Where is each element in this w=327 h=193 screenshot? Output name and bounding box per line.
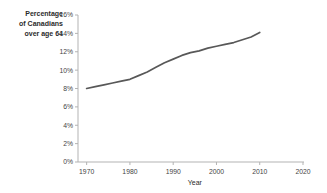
x-tick-label: 1990 bbox=[166, 168, 181, 175]
y-tick-label: 6% bbox=[63, 103, 73, 110]
x-axis-title: Year bbox=[188, 179, 203, 186]
y-tick-label: 14% bbox=[59, 30, 73, 37]
y-tick-label: 12% bbox=[59, 48, 73, 55]
y-tick-label: 2% bbox=[63, 140, 73, 147]
data-line bbox=[87, 32, 260, 88]
y-tick-label: 0% bbox=[63, 158, 73, 165]
x-tick-label: 2000 bbox=[209, 168, 224, 175]
y-tick-label: 16% bbox=[59, 11, 73, 18]
y-tick-label: 4% bbox=[63, 122, 73, 129]
x-tick-label: 2010 bbox=[252, 168, 267, 175]
line-chart-svg: 0%2%4%6%8%10%12%14%16%197019801990200020… bbox=[0, 0, 327, 193]
y-tick-label: 10% bbox=[59, 67, 73, 74]
x-tick-label: 1970 bbox=[79, 168, 94, 175]
chart-figure: Percentage of Canadians over age 64 0%2%… bbox=[0, 0, 327, 193]
x-tick-label: 1980 bbox=[122, 168, 137, 175]
y-tick-label: 8% bbox=[63, 85, 73, 92]
x-tick-label: 2020 bbox=[295, 168, 310, 175]
